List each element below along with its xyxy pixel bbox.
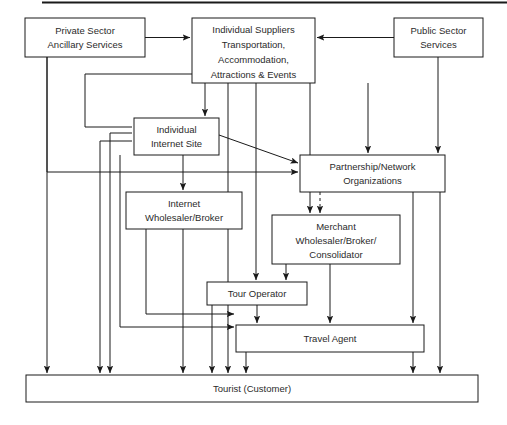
node-individual-suppliers[interactable]: Individual Suppliers Transportation, Acc…	[192, 18, 315, 83]
internet-wholesaler-line-1: Wholesaler/Broker	[145, 212, 223, 223]
tour-operator-line-0: Tour Operator	[228, 288, 287, 299]
node-tourist[interactable]: Tourist (Customer)	[26, 375, 478, 402]
node-tour-operator[interactable]: Tour Operator	[207, 282, 307, 305]
tourist-line-0: Tourist (Customer)	[213, 383, 291, 394]
individual-internet-site-line-0: Individual	[156, 124, 196, 135]
private-sector-line-0: Private Sector	[55, 25, 115, 36]
node-travel-agent[interactable]: Travel Agent	[236, 325, 424, 352]
public-sector-line-0: Public Sector	[411, 25, 467, 36]
edge-secondary-left-wrap	[110, 133, 132, 373]
travel-agent-line-0: Travel Agent	[304, 333, 357, 344]
partnership-network-line-1: Organizations	[343, 175, 402, 186]
edge-layer	[47, 38, 440, 374]
diagram-canvas: Private Sector Ancillary Services Indivi…	[0, 0, 507, 425]
flow-diagram-svg: Private Sector Ancillary Services Indivi…	[0, 0, 507, 425]
node-public-sector[interactable]: Public Sector Services	[394, 18, 483, 57]
partnership-network-line-0: Partnership/Network	[329, 161, 415, 172]
merchant-wholesaler-line-0: Merchant	[316, 221, 356, 232]
individual-suppliers-line-2: Accommodation,	[218, 54, 289, 65]
node-individual-internet-site[interactable]: Individual Internet Site	[134, 118, 219, 155]
merchant-wholesaler-line-2: Consolidator	[309, 249, 362, 260]
edge-internet-site-left-wrap-tourist	[100, 141, 132, 373]
public-sector-line-1: Services	[420, 39, 457, 50]
merchant-wholesaler-line-1: Wholesaler/Broker/	[296, 235, 377, 246]
individual-suppliers-line-0: Individual Suppliers	[212, 24, 295, 35]
node-partnership-network[interactable]: Partnership/Network Organizations	[300, 155, 445, 192]
edge-internet-site-to-partnership	[219, 135, 298, 163]
node-internet-wholesaler[interactable]: Internet Wholesaler/Broker	[126, 192, 242, 229]
individual-internet-site-line-1: Internet Site	[151, 138, 202, 149]
internet-wholesaler-line-0: Internet	[168, 198, 201, 209]
individual-suppliers-line-3: Attractions & Events	[211, 69, 297, 80]
individual-suppliers-line-1: Transportation,	[222, 39, 286, 50]
node-layer: Private Sector Ancillary Services Indivi…	[25, 18, 483, 402]
node-merchant-wholesaler[interactable]: Merchant Wholesaler/Broker/ Consolidator	[272, 215, 400, 264]
node-private-sector[interactable]: Private Sector Ancillary Services	[25, 18, 145, 57]
private-sector-line-1: Ancillary Services	[48, 39, 123, 50]
